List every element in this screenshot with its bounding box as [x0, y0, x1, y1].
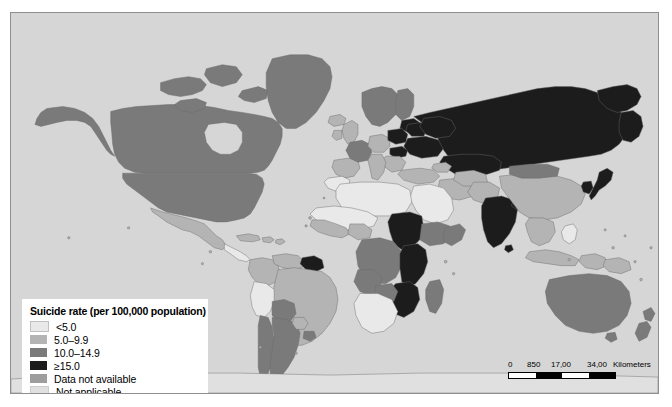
region-mongolia: [509, 164, 559, 178]
scale-bar-tick-labels: 0 850 17,00 34,00 Kilometers: [508, 360, 636, 371]
legend-title: Suicide rate (per 100,000 population): [30, 305, 200, 317]
scale-seg-4: [589, 373, 616, 378]
legend-item-10-14: 10.0–14.9: [30, 346, 200, 359]
legend-label-no-data: Data not available: [54, 373, 136, 385]
scale-unit-label: Kilometers: [613, 360, 651, 369]
legend-item-gte15: ≥15.0: [30, 359, 200, 372]
scale-tick-1: 850: [527, 360, 540, 369]
region-central-europe: [368, 134, 390, 152]
legend-item-no-data: Data not available: [30, 372, 200, 385]
scale-seg-2: [536, 373, 563, 378]
legend-label-5-9: 5.0–9.9: [54, 334, 88, 346]
legend-item-not-applicable: Not applicable: [30, 385, 200, 394]
scale-seg-1: [509, 373, 536, 378]
legend-label-gte15: ≥15.0: [54, 360, 80, 372]
legend-swatch-10-14: [30, 348, 47, 357]
scale-seg-3: [562, 373, 589, 378]
legend-swatch-lt5: [30, 321, 49, 332]
legend-swatch-5-9: [30, 335, 47, 344]
legend-item-5-9: 5.0–9.9: [30, 333, 200, 346]
legend-label-lt5: <5.0: [56, 321, 76, 333]
scale-bar-graphic: [508, 372, 616, 379]
legend-swatch-no-data: [30, 374, 47, 383]
scale-tick-2: 17,00: [551, 360, 571, 369]
world-map-figure: .c{stroke:#6b6b6b;stroke-width:0.45;stro…: [0, 0, 672, 407]
legend-swatch-gte15: [30, 361, 47, 370]
legend-label-10-14: 10.0–14.9: [54, 347, 100, 359]
region-canada: [111, 105, 282, 174]
map-scale-bar: 0 850 17,00 34,00 Kilometers: [508, 360, 636, 379]
map-legend: Suicide rate (per 100,000 population) <5…: [22, 299, 208, 394]
scale-tick-0: 0: [508, 360, 512, 369]
legend-swatch-not-applicable: [30, 386, 49, 394]
map-frame: .c{stroke:#6b6b6b;stroke-width:0.45;stro…: [10, 12, 659, 394]
legend-label-not-applicable: Not applicable: [56, 386, 121, 395]
scale-tick-3: 34,00: [587, 360, 607, 369]
legend-item-lt5: <5.0: [30, 320, 200, 333]
